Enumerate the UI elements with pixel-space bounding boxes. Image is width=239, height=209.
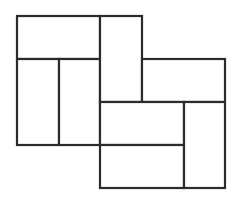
tile-vertical-r8 bbox=[184, 102, 225, 188]
tile-vertical-r4 bbox=[100, 16, 142, 102]
tile-horizontal-r1 bbox=[17, 16, 100, 59]
tile-horizontal-r6 bbox=[100, 102, 184, 145]
tile-horizontal-r7 bbox=[100, 145, 184, 188]
tile-vertical-r2 bbox=[17, 59, 59, 145]
tile-horizontal-r5 bbox=[142, 59, 225, 102]
tiling-diagram bbox=[0, 0, 239, 209]
tile-vertical-r3 bbox=[59, 59, 100, 145]
